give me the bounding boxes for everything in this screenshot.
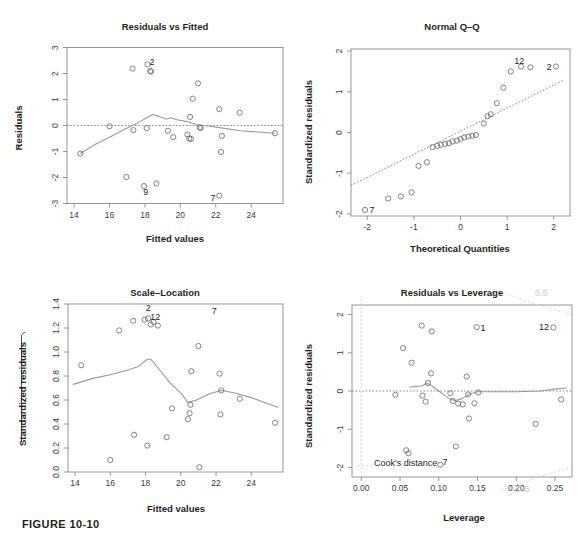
y-tick-label: 0.2 [51,442,61,454]
data-point [393,392,398,397]
y-tick-label: 0.4 [51,418,61,430]
y-tick-label: 2 [334,48,344,53]
loess-curve [410,383,566,400]
x-tick-label: 18 [141,478,151,488]
x-tick-label: 16 [106,478,116,488]
outlier-label: 7 [369,205,374,215]
x-tick-label: 0.00 [353,483,370,493]
y-tick-label: -2 [334,210,344,218]
x-tick-label: -2 [364,222,372,232]
data-point [187,411,192,416]
y-tick-label: -2 [50,173,60,181]
data-point [424,160,429,165]
data-point [155,323,160,328]
point-labels: 1227 [369,56,551,215]
data-point [190,96,195,101]
figure-caption: FIGURE 10-10 [22,518,100,530]
data-point [217,193,222,198]
panel-residuals-vs-fitted: Residuals vs Fitted 141618202224 -3-2-10… [0,0,292,274]
y-tick-label: 0 [50,123,60,128]
y-axis-label: Standardized residuals [17,342,28,446]
data-point [131,432,136,437]
data-point [528,65,533,70]
data-point [195,81,200,86]
x-tick-label: 0.25 [547,483,564,493]
data-point [409,190,414,195]
scale-location-chart: Scale–Location 141618202224 0.00.20.40.6… [0,274,292,547]
data-point [429,329,434,334]
data-point [453,444,458,449]
y-tick-label: 2 [50,71,60,76]
data-point [425,380,430,385]
data-point [466,416,471,421]
panel-scale-location: Scale–Location 141618202224 0.00.20.40.6… [0,274,292,547]
data-point [551,325,556,330]
data-point [197,465,202,470]
data-point [473,132,478,137]
data-point [420,393,425,398]
chart-title: Residuals vs Fitted [122,21,209,32]
loess-smoother [80,115,275,154]
outlier-label: 7 [442,457,447,467]
x-tick-label: 2 [551,222,556,232]
outlier-label: 12 [514,56,524,66]
x-tick-label: 0 [458,222,463,232]
data-point [218,412,223,417]
data-point [219,133,224,138]
outlier-label: 12 [150,312,160,322]
x-tick-label: 20 [176,210,186,220]
data-point [409,360,414,365]
data-point [196,343,201,348]
data-point [117,328,122,333]
x-ticks: 141618202224 [70,472,256,488]
y-ticks: -3-2-10123 [50,45,67,207]
data-point [131,318,136,323]
data-point [472,401,477,406]
data-point [144,126,149,131]
x-ticks: 141618202224 [69,204,256,220]
y-tick-label: -2 [335,463,345,471]
x-axis-label: Theoretical Quantities [410,243,510,254]
x-axis-label: Fitted values [146,233,204,244]
data-point [189,369,194,374]
cooks-level-bottom-label: 0.5 [517,484,530,494]
qq-line [351,80,563,185]
axes: 141618202224 0.00.20.40.60.81.01.21.4 [51,298,256,488]
data-point [185,417,190,422]
y-tick-label: 1.4 [51,298,61,310]
loess-smoother [410,383,566,400]
chart-title: Scale–Location [130,287,200,298]
x-axis-label: Fitted values [147,503,205,514]
data-point [237,110,242,115]
data-point [187,114,192,119]
data-point [474,325,479,330]
outlier-label: 2 [547,62,552,72]
data-point [79,363,84,368]
y-tick-label: 1.0 [51,346,61,358]
residuals-vs-fitted-chart: Residuals vs Fitted 141618202224 -3-2-10… [0,0,292,274]
data-point [401,346,406,351]
data-point [398,194,403,199]
y-tick-label: 1 [335,350,345,355]
data-point [154,181,159,186]
y-axis-label: Residuals [13,106,24,151]
point-labels: 2127 [146,303,217,321]
data-point [107,124,112,129]
loess-curve [73,359,277,407]
x-tick-label: 16 [105,210,115,220]
y-tick-label: 2 [335,312,345,317]
data-point [448,391,453,396]
data-point [470,133,475,138]
outlier-label: 2 [149,57,154,67]
data-point [419,323,424,328]
plot-frame [351,49,570,216]
x-tick-label: 22 [211,478,221,488]
data-points [78,62,278,198]
data-point [164,435,169,440]
data-point [131,128,136,133]
outlier-label: 12 [539,322,549,332]
x-tick-label: 0.15 [469,483,486,493]
data-point [481,121,486,126]
y-ticks: -2-1012 [334,48,351,217]
x-axis-label: Leverage [443,512,485,523]
